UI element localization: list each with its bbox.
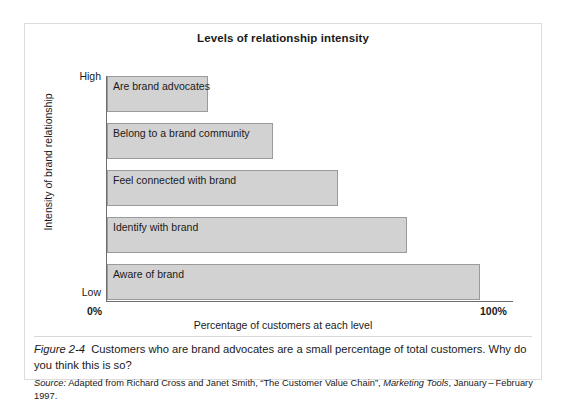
figure-caption: Figure 2-4 Customers who are brand advoc… <box>34 342 534 373</box>
bar-label: Feel connected with brand <box>113 174 236 186</box>
figure-number: Figure 2-4 <box>34 343 85 355</box>
bar-label: Are brand advocates <box>113 80 210 92</box>
x-axis-tick-max: 100% <box>480 305 507 317</box>
bar-label: Belong to a brand community <box>113 127 250 139</box>
figure-caption-text: Customers who are brand advocates are a … <box>34 343 527 371</box>
bar-label: Aware of brand <box>113 268 184 280</box>
bar-label: Identify with brand <box>113 221 198 233</box>
figure-frame: Levels of relationship intensity Intensi… <box>24 23 542 380</box>
y-axis-tick-high: High <box>63 70 101 82</box>
x-axis-line <box>106 301 513 302</box>
y-axis-tick-low: Low <box>63 286 101 298</box>
y-axis-title: Intensity of brand relationship <box>42 77 54 247</box>
plot-area: Are brand advocates Belong to a brand co… <box>106 76 511 301</box>
source-publication: Marketing Tools <box>383 378 448 388</box>
chart-container: Levels of relationship intensity Intensi… <box>25 24 541 326</box>
figure-source: Source: Adapted from Richard Cross and J… <box>34 377 534 403</box>
source-label: Source: <box>34 378 66 388</box>
caption-divider <box>34 336 532 337</box>
source-text-before: Adapted from Richard Cross and Janet Smi… <box>68 378 380 388</box>
caption-block: Figure 2-4 Customers who are brand advoc… <box>34 342 534 403</box>
chart-title: Levels of relationship intensity <box>25 32 541 44</box>
x-axis-tick-min: 0% <box>87 305 102 317</box>
x-axis-title: Percentage of customers at each level <box>25 319 541 331</box>
